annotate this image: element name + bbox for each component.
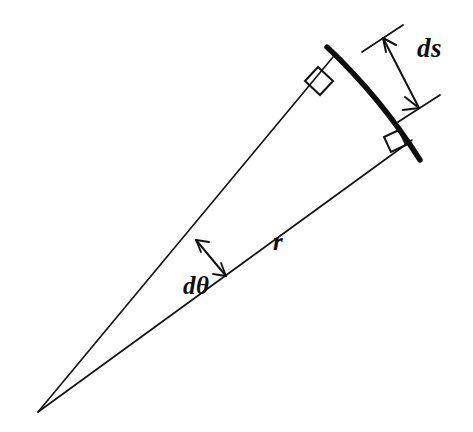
arc-length-label: ds (417, 33, 442, 64)
upper-radius-line (38, 57, 333, 412)
ds-arrow-shaft (383, 38, 419, 108)
ds-extension-tick-lower (398, 95, 440, 122)
angle-arrow-shaft (196, 240, 226, 276)
ds-extension-tick-upper (362, 25, 403, 52)
angle-label: dθ (183, 272, 209, 300)
sector-radii (38, 57, 412, 412)
arc-length-diagram: ds r dθ (0, 0, 473, 432)
angle-double-arrow (196, 240, 226, 276)
radius-label: r (273, 228, 283, 256)
diagram-canvas (0, 0, 473, 432)
right-angle-marker-upper (305, 67, 333, 95)
